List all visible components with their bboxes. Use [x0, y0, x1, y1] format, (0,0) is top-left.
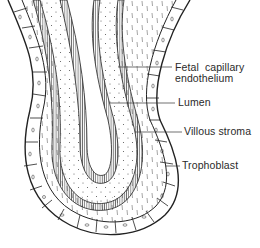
label-fetal-capillary: Fetal capillary endothelium: [175, 62, 244, 84]
label-fetal-capillary-line2: endothelium: [175, 73, 244, 84]
label-trophoblast: Trophoblast: [182, 160, 238, 171]
label-lumen: Lumen: [178, 97, 211, 108]
villus-diagram: [0, 0, 260, 248]
label-villous-stroma: Villous stroma: [184, 126, 251, 137]
